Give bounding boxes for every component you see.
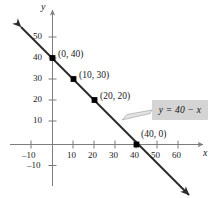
y-tick-label-20: 20	[33, 95, 42, 104]
x-tick-label-20: 20	[88, 151, 97, 160]
data-point-0-40	[50, 55, 56, 61]
y-tick-label-30: 30	[33, 74, 42, 83]
y-tick-label-40: 40	[33, 53, 42, 62]
y-tick-label-10: 10	[33, 116, 42, 125]
data-point-20-20	[92, 97, 98, 103]
x-tick-label-30: 30	[109, 151, 118, 160]
y-axis	[49, 10, 57, 186]
y-tick-label--10: –10	[27, 161, 41, 170]
x-tick-label-60: 60	[172, 151, 181, 160]
x-tick-label-10: 10	[67, 151, 76, 160]
point-label-20-20: (20, 20)	[100, 92, 130, 102]
y-axis-label: y	[41, 2, 45, 12]
point-label-0-40: (0, 40)	[58, 50, 83, 60]
data-point-40-0	[134, 142, 140, 148]
point-label-10-30: (10, 30)	[79, 71, 109, 81]
callout-leader	[122, 110, 152, 120]
equation-text: y = 40 − x	[159, 105, 201, 115]
graph-figure: y x –10 10 20 30 40 50 60 50 40 30 20 10…	[0, 0, 218, 198]
x-axis-label: x	[203, 148, 207, 158]
equation-callout: y = 40 − x	[152, 100, 208, 120]
y-tick-label-50: 50	[33, 32, 42, 41]
callout-pointer	[122, 110, 152, 120]
x-tick-label-40: 40	[130, 151, 139, 160]
x-tick-label-50: 50	[151, 151, 160, 160]
point-label-40-0: (40, 0)	[141, 130, 166, 140]
data-point-10-30	[71, 76, 77, 82]
x-tick-label--10: –10	[22, 151, 36, 160]
x-axis	[10, 141, 203, 149]
